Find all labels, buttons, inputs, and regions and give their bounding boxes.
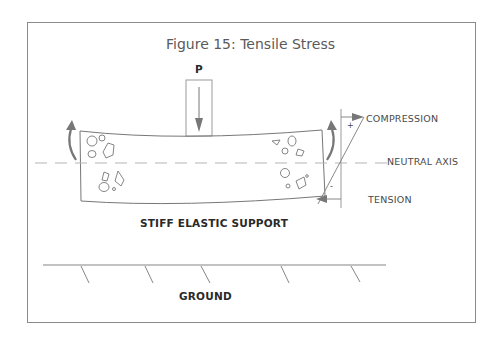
tension-label: TENSION (368, 194, 412, 205)
load-arrow-icon (186, 80, 212, 136)
tension-sign: - (330, 182, 333, 191)
ground-hatching (43, 265, 386, 283)
rotation-arrow-left-icon (66, 120, 76, 160)
compression-sign: + (347, 121, 354, 130)
neutral-axis-label: NEUTRAL AXIS (387, 156, 458, 167)
support-label: STIFF ELASTIC SUPPORT (140, 217, 288, 229)
load-label: P (195, 63, 203, 75)
compression-label: COMPRESSION (366, 113, 438, 124)
diagram-canvas (0, 0, 501, 344)
ground-label: GROUND (179, 290, 232, 302)
rotation-arrow-right-icon (327, 120, 337, 160)
